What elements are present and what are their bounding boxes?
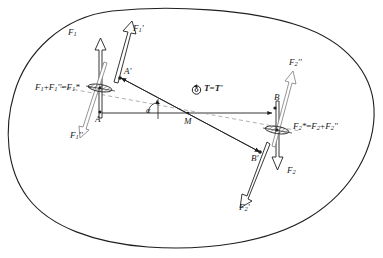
- angle-label-alpha: α: [146, 107, 150, 115]
- force-label-F1-double-prime: F1'': [70, 131, 83, 140]
- point-dot-B-prime: [258, 150, 262, 154]
- force-label-F1-prime: F1': [133, 24, 144, 33]
- force-label-F1: F1: [68, 28, 77, 37]
- force-label-F2-prime: F2': [239, 203, 250, 212]
- point-dot-M: [187, 112, 190, 115]
- point-dot-A-prime: [118, 76, 122, 80]
- force-label-F2: F2: [287, 166, 296, 175]
- point-label-A-prime: A': [124, 67, 131, 76]
- point-label-B: B: [274, 93, 280, 102]
- point-label-M: M: [184, 117, 192, 126]
- equation-right-F2: F2*=F2+F2'': [293, 122, 338, 131]
- point-label-B-prime: B': [251, 154, 258, 163]
- diagram-canvas: F1 F1' F1'' F2 F2' F2'' A A' M B B' α T=…: [0, 0, 383, 258]
- force-label-F2-double-prime: F2'': [289, 58, 302, 67]
- point-dot-B: [273, 106, 276, 109]
- moment-label-T-equals-T-prime: T=T': [204, 84, 223, 93]
- point-label-A: A: [95, 115, 101, 124]
- equation-left-F1: F1+F1''=F1*: [35, 83, 80, 92]
